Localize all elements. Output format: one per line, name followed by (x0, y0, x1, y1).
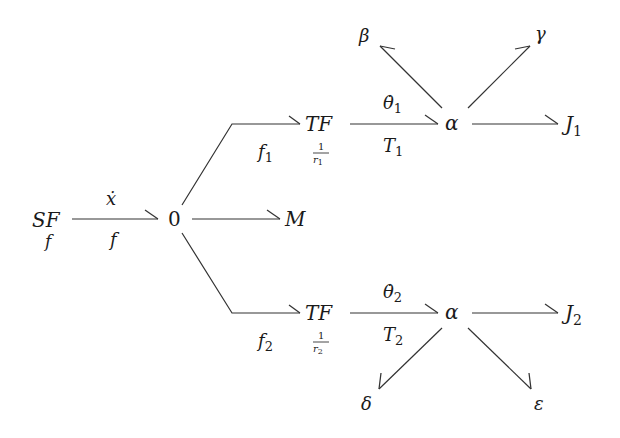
bond-torque-label: T1 (383, 135, 403, 159)
tf2-ratio-den: r2 (313, 343, 323, 356)
bond-line (468, 46, 530, 108)
half-arrow-icon (289, 116, 300, 124)
bond-line (182, 124, 300, 205)
tf2-ratio-num: 1 (318, 330, 324, 341)
half-arrow-icon (545, 115, 558, 124)
bond-effort-label: θ̇2 (383, 281, 402, 305)
bond-flow-label: f1 (256, 141, 273, 165)
bond-alpha2-to-j2 (472, 304, 558, 313)
bond-0-to-tf1: f1 (182, 116, 300, 205)
half-arrow-icon (145, 210, 158, 219)
bond-tf2-to-alpha2: θ̇2 T2 (350, 281, 438, 348)
bond-alpha1-to-j1 (472, 115, 558, 124)
node-delta: δ (361, 393, 372, 414)
half-arrow-icon (425, 115, 438, 124)
bond-line (468, 328, 531, 389)
source-sublabel: f (43, 231, 54, 251)
bond-effort-label: ẋ (106, 188, 116, 209)
node-tf1: TF 1 r1 (305, 112, 333, 167)
bond-flow-label: f2 (256, 330, 273, 354)
node-j1: J1 (561, 112, 582, 139)
node-source: SF f (32, 208, 61, 251)
node-mass: M (284, 207, 306, 231)
node-beta: β (358, 25, 369, 46)
node-gamma: γ (535, 23, 546, 44)
bond-0-to-tf2: f2 (182, 233, 300, 354)
bond-alpha1-to-gamma (468, 46, 530, 108)
bond-flow-label: f (108, 229, 120, 250)
bond-line (182, 233, 300, 313)
bond-alpha2-to-epsilon (468, 328, 531, 389)
source-label: SF (32, 208, 61, 232)
node-alpha2: α (445, 300, 459, 324)
bond-sf-to-0: ẋ f (72, 188, 158, 250)
bond-graph-diagram: SF f ẋ f 0 M f1 TF 1 r1 θ̇1 T1 α (0, 0, 620, 438)
tf1-ratio-den: r1 (313, 154, 323, 167)
half-arrow-icon (289, 305, 300, 313)
node-alpha1: α (445, 111, 459, 135)
node-j2: J2 (561, 301, 582, 328)
bond-0-to-m (192, 210, 280, 219)
junction-zero: 0 (168, 207, 181, 231)
node-epsilon: ε (534, 393, 544, 414)
half-arrow-icon (425, 304, 438, 313)
bond-tf1-to-alpha1: θ̇1 T1 (350, 92, 438, 159)
node-tf2: TF 1 r2 (305, 301, 333, 356)
half-arrow-icon (545, 304, 558, 313)
bond-torque-label: T2 (383, 324, 403, 348)
half-arrow-icon (267, 210, 280, 219)
tf1-label: TF (305, 112, 333, 136)
bond-effort-label: θ̇1 (383, 92, 402, 116)
tf1-ratio-num: 1 (318, 141, 324, 152)
tf2-label: TF (305, 301, 333, 325)
